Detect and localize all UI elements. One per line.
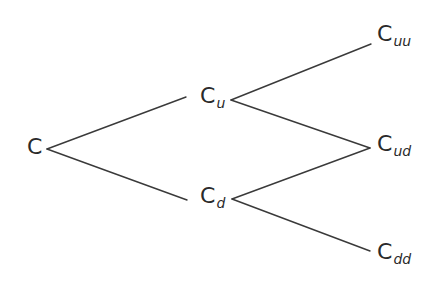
- node-cd: Cd: [200, 185, 225, 207]
- edge-cu-to-cud: [231, 100, 370, 148]
- node-cdd: Cdd: [377, 241, 411, 263]
- node-cud-base: C: [377, 131, 392, 156]
- edge-c-to-cu: [47, 97, 186, 149]
- tree-edges: [47, 44, 371, 251]
- node-cuu-base: C: [377, 21, 392, 46]
- node-cdd-subscript: dd: [393, 251, 411, 267]
- node-cd-base: C: [200, 183, 215, 208]
- binomial-tree-diagram: [0, 0, 432, 286]
- node-cuu: Cuu: [377, 23, 411, 45]
- edge-cu-to-cuu: [231, 44, 371, 100]
- edge-cd-to-cud: [232, 148, 370, 199]
- node-cu-subscript: u: [216, 95, 225, 111]
- node-cd-subscript: d: [216, 195, 225, 211]
- node-cu-base: C: [200, 83, 215, 108]
- node-cu: Cu: [200, 85, 225, 107]
- edge-c-to-cd: [47, 149, 187, 200]
- node-cud-subscript: ud: [393, 143, 411, 159]
- node-cud: Cud: [377, 133, 411, 155]
- node-cuu-subscript: uu: [393, 33, 411, 49]
- node-c: C: [27, 136, 43, 158]
- node-c-base: C: [27, 134, 42, 159]
- node-cdd-base: C: [377, 239, 392, 264]
- edge-cd-to-cdd: [232, 199, 370, 251]
